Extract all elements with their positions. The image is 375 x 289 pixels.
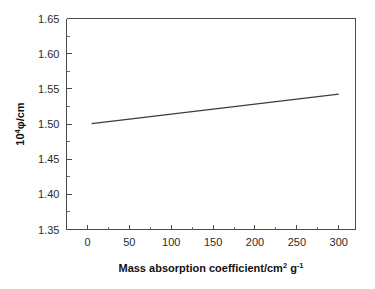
x-tick-label: 50 — [123, 236, 135, 248]
x-tick-label: 300 — [330, 236, 348, 248]
x-axis-title-superscript-2: -1 — [297, 261, 304, 270]
x-tick-label: 100 — [162, 236, 180, 248]
x-tick-label: 250 — [288, 236, 306, 248]
y-tick-label: 1.55 — [38, 83, 59, 95]
line-chart: 1.351.401.451.501.551.601.65 05010015020… — [0, 0, 375, 289]
y-tick-label: 1.60 — [38, 48, 59, 60]
x-tick-label: 0 — [84, 236, 90, 248]
y-axis-title: 104φ/cm — [13, 102, 26, 145]
x-tick-label: 150 — [204, 236, 222, 248]
y-tick-label: 1.50 — [38, 118, 59, 130]
y-axis-title-rest: φ/cm — [14, 102, 26, 129]
y-tick-label: 1.40 — [38, 188, 59, 200]
y-tick-label: 1.65 — [38, 13, 59, 25]
y-tick-label: 1.45 — [38, 153, 59, 165]
figure-background — [0, 0, 375, 289]
x-tick-label: 200 — [246, 236, 264, 248]
x-axis-title-mid: g — [287, 262, 297, 274]
x-axis-title-main: Mass absorption coefficient/cm — [118, 262, 283, 274]
y-axis-title-base: 10 — [14, 133, 26, 145]
chart-figure: 1.351.401.451.501.551.601.65 05010015020… — [0, 0, 375, 289]
x-axis-title: Mass absorption coefficient/cm2 g-1 — [118, 261, 303, 274]
y-tick-label: 1.35 — [38, 224, 59, 236]
y-axis-title-text: 104φ/cm — [13, 102, 26, 145]
